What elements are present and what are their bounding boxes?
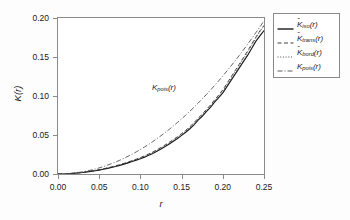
- y-tick-mark: [53, 135, 57, 136]
- symbol-k: K: [297, 20, 302, 29]
- symbol-arg: (r): [310, 20, 318, 29]
- y-tick-mark: [53, 18, 57, 19]
- ripley-k-function-chart: 0.000.050.100.150.200.000.050.100.150.20…: [0, 0, 350, 220]
- series-line-K_trans: [58, 25, 264, 174]
- y-tick-label: 0.00: [19, 169, 49, 179]
- x-tick-label: 0.15: [162, 182, 202, 192]
- legend-line-sample: [277, 24, 294, 34]
- legend-item-K_bord[interactable]: Kbord(r): [274, 46, 339, 60]
- y-axis-title-text: K(r): [12, 86, 23, 102]
- curves-svg: [58, 18, 264, 174]
- symbol-arg: (r): [168, 83, 176, 92]
- symbol-arg: (r): [315, 34, 323, 43]
- legend-item-K_iso[interactable]: Kiso(r): [274, 18, 339, 32]
- legend-line-sample: [277, 52, 294, 62]
- series-line-K_bord: [58, 26, 264, 174]
- series-line-K_pois: [58, 21, 264, 174]
- legend-item-K_trans[interactable]: Ktrans(r): [274, 32, 339, 46]
- x-tick-mark: [264, 175, 265, 179]
- y-tick-label: 0.10: [19, 91, 49, 101]
- legend-key-K_iso: [277, 20, 294, 30]
- legend-key-K_pois: [277, 62, 294, 72]
- legend-label-K_pois: Kpois(r): [297, 62, 321, 71]
- x-tick-label: 0.05: [79, 182, 119, 192]
- plot-area: [57, 17, 265, 175]
- series-line-K_iso: [58, 30, 264, 174]
- legend-label-K_bord: Kbord(r): [297, 48, 322, 57]
- symbol-subscript: bord: [302, 52, 314, 58]
- x-tick-mark: [182, 175, 183, 179]
- y-tick-label: 0.05: [19, 130, 49, 140]
- x-tick-label: 0.10: [120, 182, 160, 192]
- legend-label-K_trans: Ktrans(r): [297, 34, 323, 43]
- y-tick-mark: [53, 96, 57, 97]
- legend: Kiso(r)Ktrans(r)Kbord(r)Kpois(r): [273, 13, 340, 78]
- x-tick-label: 0.25: [244, 182, 284, 192]
- x-tick-label: 0.00: [38, 182, 78, 192]
- x-tick-mark: [99, 175, 100, 179]
- poisson-curve-annotation: Kpois(r): [152, 83, 176, 92]
- symbol-subscript: iso: [302, 24, 309, 30]
- legend-line-sample: [277, 66, 294, 76]
- symbol-arg: (r): [314, 48, 322, 57]
- y-tick-label: 0.20: [19, 13, 49, 23]
- y-tick-mark: [53, 57, 57, 58]
- symbol-subscript: trans: [302, 38, 315, 44]
- symbol-arg: (r): [313, 62, 321, 71]
- symbol-k: K: [297, 48, 302, 57]
- symbol-subscript: pois: [302, 66, 313, 72]
- y-axis-title: K(r): [12, 64, 23, 124]
- x-tick-mark: [58, 175, 59, 179]
- legend-line-sample: [277, 38, 294, 48]
- x-tick-label: 0.20: [203, 182, 243, 192]
- legend-key-K_trans: [277, 34, 294, 44]
- legend-item-K_pois[interactable]: Kpois(r): [274, 60, 339, 74]
- legend-label-K_iso: Kiso(r): [297, 20, 318, 29]
- x-axis-title: r: [57, 198, 265, 209]
- symbol-k: K: [297, 34, 302, 43]
- x-tick-mark: [140, 175, 141, 179]
- x-tick-mark: [223, 175, 224, 179]
- y-tick-label: 0.15: [19, 52, 49, 62]
- symbol-subscript: pois: [157, 86, 168, 92]
- y-tick-mark: [53, 174, 57, 175]
- legend-key-K_bord: [277, 48, 294, 58]
